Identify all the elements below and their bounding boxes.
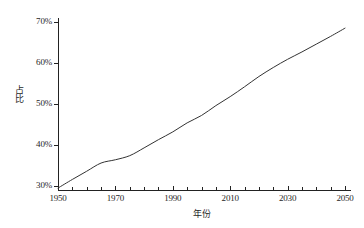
x-axis-tick-label: 1950	[38, 193, 78, 203]
y-axis-tick-label: 30%	[10, 180, 52, 190]
y-axis-tick-label: 40%	[10, 139, 52, 149]
x-axis-tick-label: 2010	[210, 193, 250, 203]
x-axis-title: 年份	[172, 207, 232, 220]
axis-lines	[58, 18, 351, 190]
y-axis-tick-label: 70%	[10, 16, 52, 26]
x-axis-tick-label: 2030	[268, 193, 308, 203]
y-axis-title: 占比	[14, 85, 23, 103]
chart-container: 30%40%50%60%70% 195019701990201020302050…	[0, 0, 364, 228]
data-line-series-0	[58, 28, 345, 188]
x-axis-tick-label: 1970	[95, 193, 135, 203]
y-axis-tick-label: 60%	[10, 57, 52, 67]
y-axis-ticks	[54, 23, 58, 187]
x-axis-tick-label: 2050	[325, 193, 364, 203]
x-axis-tick-label: 1990	[153, 193, 193, 203]
